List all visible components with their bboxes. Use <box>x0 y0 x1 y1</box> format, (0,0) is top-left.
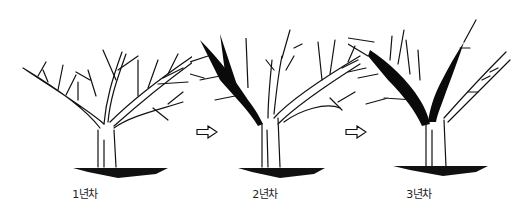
stage-label-year-1: 1년차 <box>0 185 172 201</box>
ground-shadow <box>238 168 325 178</box>
stage-label-year-3: 3년차 <box>332 185 506 201</box>
tree-year-2-illustration <box>190 0 364 214</box>
tree-year-1-illustration <box>18 0 192 214</box>
stage-label-year-2: 2년차 <box>178 185 352 201</box>
stage-year-1: 1년차 <box>18 0 192 214</box>
stage-year-2: 2년차 <box>190 0 364 214</box>
pruned-branch <box>428 42 464 122</box>
ground-shadow <box>393 166 488 176</box>
tree-year-3-illustration <box>348 0 522 214</box>
ground-shadow <box>73 168 168 178</box>
stage-year-3: 3년차 <box>348 0 522 214</box>
